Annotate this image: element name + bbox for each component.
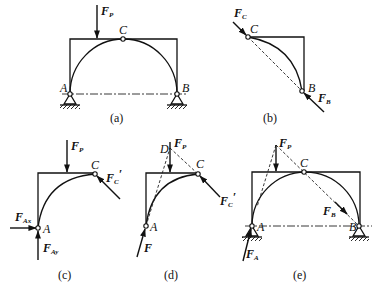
- label-c: C: [91, 158, 100, 172]
- three-hinged-arch-diagram: FP C A B (a) FC FB C: [0, 0, 377, 290]
- label-b: B: [308, 81, 316, 95]
- hinge-a: [36, 226, 40, 230]
- hinge-b: [300, 89, 304, 93]
- force-fp-label: FP: [70, 139, 84, 154]
- panel-a: FP C A B (a): [59, 4, 190, 125]
- arch-curve: [38, 174, 95, 228]
- caption-b: (b): [263, 111, 277, 125]
- label-a: A: [42, 222, 51, 236]
- caption-e: (e): [293, 268, 306, 282]
- force-fc-prime-label: FC′: [219, 190, 236, 209]
- force-fay-label: FAy: [42, 241, 59, 256]
- arch-curve: [70, 39, 177, 94]
- force-fc-arrow: [233, 22, 246, 35]
- label-b: B: [182, 81, 190, 95]
- panel-e: FP FB FA C A B (e): [242, 136, 372, 282]
- hinge-a: [144, 224, 148, 228]
- force-fp-label: FP: [173, 136, 187, 151]
- force-fc-prime-label: FC′: [105, 167, 122, 186]
- label-a: A: [256, 220, 265, 234]
- force-fb-label: FB: [322, 204, 336, 219]
- panel-d: FP D FC′ F C A (d): [137, 136, 236, 282]
- caption-a: (a): [110, 111, 123, 125]
- force-fc-label: FC: [233, 6, 247, 21]
- force-fp-label: FP: [100, 4, 114, 19]
- caption-d: (d): [164, 268, 178, 282]
- force-fc-prime-arrow: [200, 176, 220, 197]
- label-c: C: [250, 22, 259, 36]
- force-f-label: F: [143, 241, 152, 255]
- force-fp-label: FP: [278, 136, 292, 151]
- force-fax-label: FAx: [14, 210, 32, 225]
- force-fb-label: FB: [317, 91, 331, 106]
- panel-c: FP FC′ FAx FAy C A (c): [10, 139, 122, 282]
- force-fa-label: FA: [245, 247, 259, 262]
- frame-outline: [252, 172, 360, 226]
- force-fb-arrow: [335, 202, 347, 214]
- label-c: C: [300, 156, 309, 170]
- frame-outline: [70, 39, 177, 94]
- line-of-action-a: [146, 148, 170, 226]
- hinge-a: [250, 224, 254, 228]
- hinge-c: [302, 170, 306, 174]
- line-of-action: [248, 37, 302, 91]
- caption-c: (c): [58, 268, 71, 282]
- label-a: A: [59, 81, 68, 95]
- arch-curve: [252, 172, 359, 226]
- line-of-action-a: [257, 145, 276, 207]
- panel-b: FC FB C B (b): [233, 6, 331, 125]
- label-c: C: [119, 23, 128, 37]
- label-b: B: [349, 220, 357, 234]
- label-a: A: [149, 220, 158, 234]
- hinge-c: [196, 172, 200, 176]
- hinge-c: [93, 172, 97, 176]
- label-c: C: [196, 157, 205, 171]
- line-of-action-c: [170, 148, 198, 174]
- label-d: D: [159, 142, 169, 156]
- hinge-b: [357, 224, 361, 228]
- hinge-c: [121, 37, 125, 41]
